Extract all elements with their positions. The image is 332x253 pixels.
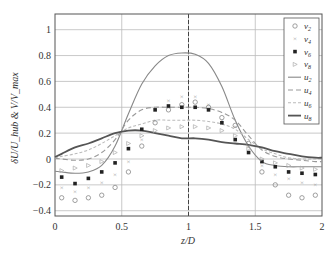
series-v2-point [260,170,264,174]
y-tick-label: 0.6 [39,76,52,87]
x-tick-label: 2 [320,221,325,232]
series-v2-point [140,144,144,148]
series-v8-point [180,125,184,129]
x-tick-label: 0 [53,221,58,232]
y-tick-label: −0.2 [33,179,51,190]
series-v4-point: × [100,179,104,187]
series-v4-point: × [180,93,184,101]
series-v6-point [167,104,171,108]
x-tick-label: 1.5 [249,221,262,232]
series-v6-point [113,161,117,165]
series-v6-point [207,108,211,112]
y-tick-label: 0.8 [39,50,52,61]
series-v6-point [193,105,197,109]
series-v8-point [73,166,77,170]
series-v4-point: × [113,171,117,179]
legend: v2×v4v6v8u2u4u6u8 [284,18,319,124]
series-v4-point: × [60,184,64,192]
series-v6-point [233,138,237,142]
series-v8-point [167,126,171,130]
series-v6-point [180,105,184,109]
series-v6-point [100,170,104,174]
series-v6-point [287,170,291,174]
y-tick-label: −0.4 [33,205,51,216]
series-v8-point [127,141,131,145]
grid-lines [55,14,322,216]
series-v2-point [100,193,104,197]
series-v6-point [87,177,91,181]
series-v8-point [100,160,104,164]
y-tick-label: 0.4 [39,102,52,113]
series-v2-point [300,196,304,200]
series-v4-point: × [207,101,211,109]
series-v4-point: × [233,123,237,131]
series-v6-point [273,165,277,169]
series-v2-point [113,185,117,189]
legend-box [284,18,319,124]
series-v6-point [314,173,318,177]
series-v2-point [73,198,77,202]
series-v2-point [59,196,63,200]
series-v6-point [140,127,144,131]
x-tick-label: 0.5 [116,221,129,232]
series-v6-point [153,108,157,112]
series-v4-point: × [193,93,197,101]
series-v8-point [207,126,211,130]
y-tick-label: 1 [46,24,51,35]
series-v8-point [233,134,237,138]
y-tick-labels: −0.4−0.200.20.40.60.81 [33,24,51,216]
x-tick-label: 1 [186,221,191,232]
y-tick-label: 0 [46,154,51,165]
series-v4-point: × [73,188,77,196]
series-v6-point [220,121,224,125]
series-v8-point [273,161,277,165]
series-v6-point [73,182,77,186]
series-v4-point: × [86,184,90,192]
chart: ×××××××××××××××××××× 00.511.52 −0.4−0.20… [0,0,332,253]
y-tick-label: 0.2 [39,128,52,139]
series-v2-point [313,193,317,197]
series-v6-point [300,171,304,175]
series-v6-point [60,175,64,179]
series-v8-point [87,163,91,167]
series-v4-point: × [273,171,277,179]
legend-swatch-v4: × [293,35,297,43]
y-axis-label: δU/U_hub & V/V_max [9,72,20,164]
legend-swatch-v6 [293,50,297,54]
series-v2-point [286,193,290,197]
series-v4-point: × [313,181,317,189]
series-v4-point: × [166,97,170,105]
series-v8-point [193,125,197,129]
series-v6-point [247,151,251,155]
series-v4-point: × [126,158,130,166]
series-v4-point: × [153,117,157,125]
series-v8-point [153,129,157,133]
series-v2-point [166,108,170,112]
series-v4-point: × [287,175,291,183]
series-v4-point: × [300,179,304,187]
series-v8-point [113,151,117,155]
series-v8-point [314,167,318,171]
x-tick-labels: 00.511.52 [53,221,325,232]
x-axis-label: z/D [180,235,196,246]
series-v2-point [86,196,90,200]
series-v6-point [127,147,131,151]
series-v8-point [220,129,224,133]
series-v2-point [126,170,130,174]
